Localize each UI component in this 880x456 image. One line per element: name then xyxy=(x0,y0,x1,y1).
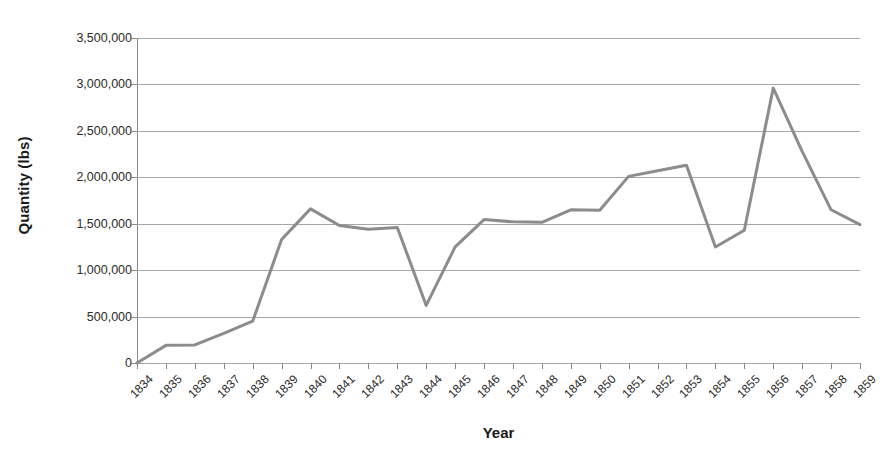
x-tick-mark xyxy=(137,363,138,369)
data-series-svg xyxy=(137,38,860,363)
x-tick-label: 1847 xyxy=(503,372,532,401)
y-tick-mark xyxy=(131,270,137,271)
x-tick-label: 1840 xyxy=(301,372,330,401)
y-tick-mark xyxy=(131,84,137,85)
x-tick-label: 1836 xyxy=(185,372,214,401)
x-tick-mark xyxy=(773,363,774,369)
x-tick-mark xyxy=(571,363,572,369)
x-tick-label: 1844 xyxy=(416,372,445,401)
y-tick-label: 2,500,000 xyxy=(40,124,132,138)
x-tick-label: 1848 xyxy=(532,372,561,401)
x-tick-mark xyxy=(426,363,427,369)
x-tick-mark xyxy=(224,363,225,369)
y-tick-label: 0 xyxy=(40,356,132,370)
x-tick-mark xyxy=(397,363,398,369)
x-tick-mark xyxy=(744,363,745,369)
y-axis-title-label: Quantity (lbs) xyxy=(15,136,32,234)
x-tick-mark xyxy=(715,363,716,369)
x-tick-label: 1835 xyxy=(156,372,185,401)
y-tick-mark xyxy=(131,131,137,132)
x-tick-label: 1852 xyxy=(648,372,677,401)
x-tick-label: 1857 xyxy=(792,372,821,401)
x-tick-label: 1850 xyxy=(590,372,619,401)
x-tick-label: 1851 xyxy=(619,372,648,401)
x-tick-mark xyxy=(658,363,659,369)
plot-area xyxy=(137,38,860,363)
x-tick-mark xyxy=(339,363,340,369)
y-tick-mark xyxy=(131,317,137,318)
x-tick-label: 1856 xyxy=(763,372,792,401)
y-tick-mark xyxy=(131,224,137,225)
line-chart: Quantity (lbs) 0500,0001,000,0001,500,00… xyxy=(0,0,880,456)
x-axis-title: Year xyxy=(137,424,860,441)
y-tick-mark xyxy=(131,363,137,364)
x-tick-mark xyxy=(368,363,369,369)
x-axis-tick-labels: 1834183518361837183818391840184118421843… xyxy=(137,372,860,424)
x-axis-ticks xyxy=(137,363,860,371)
x-tick-label: 1853 xyxy=(677,372,706,401)
y-axis-tick-labels: 0500,0001,000,0001,500,0002,000,0002,500… xyxy=(40,0,132,456)
x-tick-mark xyxy=(484,363,485,369)
x-tick-mark xyxy=(311,363,312,369)
y-tick-mark xyxy=(131,177,137,178)
x-tick-mark xyxy=(195,363,196,369)
x-tick-label: 1854 xyxy=(706,372,735,401)
x-tick-mark xyxy=(629,363,630,369)
x-tick-label: 1855 xyxy=(734,372,763,401)
x-tick-mark xyxy=(542,363,543,369)
x-tick-mark xyxy=(455,363,456,369)
x-tick-mark xyxy=(802,363,803,369)
x-tick-label: 1858 xyxy=(821,372,850,401)
x-tick-label: 1841 xyxy=(330,372,359,401)
y-tick-label: 3,000,000 xyxy=(40,77,132,91)
x-tick-label: 1837 xyxy=(214,372,243,401)
x-tick-label: 1838 xyxy=(243,372,272,401)
x-tick-mark xyxy=(253,363,254,369)
x-tick-label: 1846 xyxy=(474,372,503,401)
x-tick-label: 1842 xyxy=(358,372,387,401)
y-tick-mark xyxy=(131,38,137,39)
x-tick-label: 1849 xyxy=(561,372,590,401)
y-tick-label: 500,000 xyxy=(40,310,132,324)
y-tick-label: 3,500,000 xyxy=(40,31,132,45)
x-tick-mark xyxy=(166,363,167,369)
x-tick-label: 1859 xyxy=(850,372,879,401)
x-tick-label: 1845 xyxy=(445,372,474,401)
x-tick-mark xyxy=(831,363,832,369)
x-tick-mark xyxy=(513,363,514,369)
y-tick-label: 1,000,000 xyxy=(40,263,132,277)
y-tick-label: 1,500,000 xyxy=(40,217,132,231)
y-tick-label: 2,000,000 xyxy=(40,170,132,184)
x-tick-label: 1843 xyxy=(387,372,416,401)
x-tick-mark xyxy=(600,363,601,369)
x-tick-mark xyxy=(282,363,283,369)
series-line-quantity xyxy=(137,88,860,363)
x-tick-mark xyxy=(686,363,687,369)
x-tick-label: 1839 xyxy=(272,372,301,401)
x-tick-mark xyxy=(860,363,861,369)
